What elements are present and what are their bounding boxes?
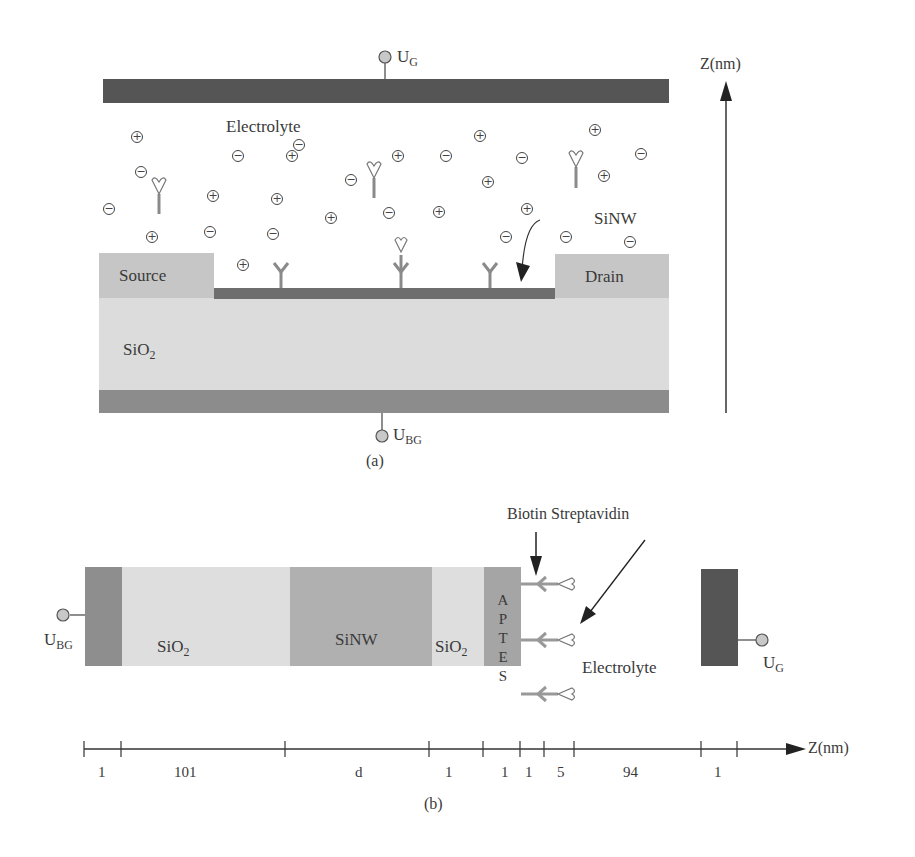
oxide-label: SiO2	[157, 637, 189, 660]
panel-b-caption: (b)	[424, 795, 443, 813]
gate-label-sub: G	[409, 55, 418, 69]
gate-label-text: U	[763, 653, 775, 672]
drain-label: Drain	[585, 267, 624, 287]
backgate-label-sub: BG	[56, 638, 73, 652]
negative-ion-icon: −	[345, 174, 357, 186]
thickness-label: 1	[525, 764, 533, 781]
positive-ion-icon: +	[207, 190, 219, 202]
thickness-label: d	[355, 764, 363, 781]
backgate-terminal-icon	[376, 430, 388, 442]
positive-ion-icon: +	[598, 170, 610, 182]
thickness-label: 5	[557, 764, 565, 781]
substrate-label-sub: 2	[149, 348, 155, 362]
layer-nanowire	[290, 567, 432, 666]
z-axis-arrow-icon	[720, 81, 732, 101]
receptor-icon	[274, 255, 497, 288]
positive-ion-icon: +	[146, 231, 158, 243]
z-axis-arrow-icon	[786, 743, 806, 755]
gate-terminal-icon	[756, 634, 768, 646]
negative-ion-icon: −	[103, 203, 115, 215]
bound-analyte-icon	[395, 238, 407, 253]
biotin-streptavidin-label: Biotin Streptavidin	[507, 505, 629, 523]
negative-ion-icon: −	[624, 236, 636, 248]
backgate-label: UBG	[393, 425, 422, 448]
positive-ion-icon: +	[433, 206, 445, 218]
substrate-label-text: SiO	[123, 340, 149, 359]
aptes-letter: E	[496, 648, 510, 667]
negative-ion-icon: −	[560, 231, 572, 243]
nanowire-label: SiNW	[335, 630, 378, 650]
gate-label-sub: G	[775, 661, 784, 675]
positive-ion-icon: +	[482, 176, 494, 188]
biotin-streptavidin-icon	[521, 577, 575, 701]
positive-ion-icon: +	[131, 131, 143, 143]
aptes-letter: A	[496, 591, 510, 610]
gate-label: UG	[763, 653, 784, 676]
source-label: Source	[119, 266, 166, 286]
negative-ion-icon: −	[383, 207, 395, 219]
oxide-thin-label: SiO2	[435, 637, 467, 660]
z-axis-label: Z(nm)	[700, 55, 741, 73]
sinw-label: SiNW	[594, 209, 637, 229]
oxide-label-text: SiO	[157, 637, 183, 656]
positive-ion-icon: +	[271, 193, 283, 205]
thickness-label: 94	[623, 764, 638, 781]
negative-ion-icon: −	[293, 139, 305, 151]
layer-oxide	[122, 567, 290, 666]
positive-ion-icon: +	[325, 212, 337, 224]
gate-terminal-icon	[379, 51, 391, 63]
thickness-label: 1	[98, 764, 106, 781]
sinw-pointer-arrow-icon	[516, 262, 530, 282]
substrate-label: SiO2	[123, 340, 155, 363]
backgate-label-text: U	[393, 425, 405, 444]
panel-a-caption: (a)	[366, 452, 384, 470]
streptavidin-pointer-arrow-icon	[580, 606, 596, 624]
oxide-label-sub: 2	[183, 645, 189, 659]
electrolyte-label: Electrolyte	[226, 117, 301, 137]
backgate-terminal-icon	[57, 609, 69, 621]
thickness-label: 1	[445, 764, 453, 781]
negative-ion-icon: −	[440, 150, 452, 162]
positive-ion-icon: +	[521, 203, 533, 215]
backgate-electrode	[99, 390, 669, 413]
negative-ion-icon: −	[135, 166, 147, 178]
backgate-label-sub: BG	[405, 433, 422, 447]
positive-ion-icon: +	[392, 150, 404, 162]
biotin-pointer-arrow-icon	[530, 556, 542, 576]
diagram-canvas	[0, 0, 915, 857]
layer-backgate	[85, 567, 122, 666]
thickness-label: 1	[501, 764, 509, 781]
aptes-letter: P	[496, 610, 510, 629]
positive-ion-icon: +	[237, 259, 249, 271]
thickness-label: 1	[714, 764, 722, 781]
negative-ion-icon: −	[232, 150, 244, 162]
nanowire	[214, 288, 555, 299]
oxide-thin-label-sub: 2	[461, 645, 467, 659]
aptes-letter: S	[496, 667, 510, 686]
negative-ion-icon: −	[635, 148, 647, 160]
layer-gate	[701, 569, 738, 666]
positive-ion-icon: +	[474, 130, 486, 142]
negative-ion-icon: −	[204, 226, 216, 238]
gate-label-text: U	[397, 47, 409, 66]
positive-ion-icon: +	[589, 124, 601, 136]
gate-label: UG	[397, 47, 418, 70]
gate-electrode	[103, 79, 669, 103]
backgate-label: UBG	[44, 630, 73, 653]
oxide-thin-label-text: SiO	[435, 637, 461, 656]
z-axis-label: Z(nm)	[808, 739, 849, 757]
backgate-label-text: U	[44, 630, 56, 649]
negative-ion-icon: −	[516, 152, 528, 164]
aptes-letter: T	[496, 629, 510, 648]
substrate	[99, 298, 669, 391]
negative-ion-icon: −	[500, 231, 512, 243]
negative-ion-icon: −	[267, 228, 279, 240]
thickness-label: 101	[174, 764, 197, 781]
positive-ion-icon: +	[286, 150, 298, 162]
electrolyte-label: Electrolyte	[582, 658, 657, 678]
aptes-label: A P T E S	[496, 591, 510, 686]
